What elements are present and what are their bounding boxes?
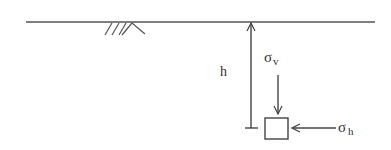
vertical-stress-label: σv (264, 49, 279, 67)
soil-element-box (265, 118, 288, 139)
ground-hatch-icon (105, 23, 145, 35)
horizontal-stress-subscript: h (348, 125, 354, 137)
horizontal-stress-symbol: σ (338, 119, 346, 135)
vertical-stress-symbol: σ (264, 49, 272, 65)
horizontal-stress-label: σh (338, 119, 354, 137)
vertical-stress-subscript: v (273, 55, 279, 67)
stress-diagram: h σv σh (0, 0, 391, 150)
depth-label: h (220, 64, 227, 79)
